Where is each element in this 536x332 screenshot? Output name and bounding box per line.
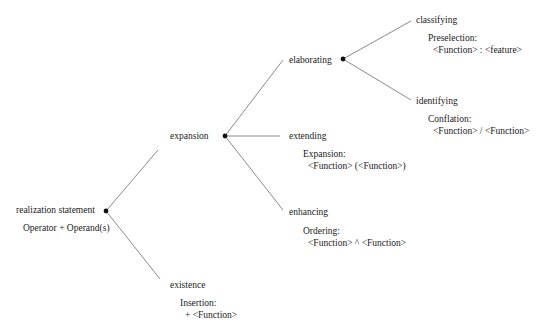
extending-note-body: <Function> (<Function>): [303, 160, 406, 172]
enhancing-note: Ordering: <Function> ^ <Function>: [303, 225, 406, 249]
node-dot-elaborating: [341, 57, 346, 62]
existence-note-title: Insertion:: [180, 298, 216, 308]
existence-note: Insertion: + <Function>: [180, 297, 237, 321]
node-realization-statement: realization statement: [16, 205, 95, 216]
node-classifying: classifying: [416, 15, 457, 26]
edge-root-existence: [106, 211, 160, 279]
identifying-note: Conflation: <Function> / <Function>: [428, 113, 529, 137]
node-existence: existence: [170, 280, 205, 291]
edge-root-expansion: [106, 150, 158, 211]
node-extending: extending: [289, 131, 326, 142]
extending-note-title: Expansion:: [303, 149, 346, 159]
classifying-note: Preselection: <Function> : <feature>: [428, 32, 522, 56]
enhancing-note-title: Ordering:: [303, 226, 340, 236]
identifying-note-title: Conflation:: [428, 114, 471, 124]
classifying-note-title: Preselection:: [428, 33, 477, 43]
extending-note: Expansion: <Function> (<Function>): [303, 148, 406, 172]
edge-elaborating-identifying: [343, 59, 411, 100]
edge-expansion-enhancing: [225, 136, 283, 210]
edge-elaborating-classifying: [343, 21, 411, 59]
node-enhancing: enhancing: [289, 207, 328, 218]
edge-expansion-elaborating: [225, 60, 283, 136]
node-elaborating: elaborating: [289, 55, 332, 66]
node-expansion: expansion: [170, 131, 209, 142]
classifying-note-body: <Function> : <feature>: [428, 44, 522, 56]
existence-note-body: + <Function>: [180, 309, 237, 321]
node-dot-root: [104, 209, 109, 214]
identifying-note-body: <Function> / <Function>: [428, 125, 529, 137]
root-note: Operator + Operand(s): [23, 223, 110, 234]
node-identifying: identifying: [416, 96, 458, 107]
node-dot-expansion: [223, 134, 228, 139]
enhancing-note-body: <Function> ^ <Function>: [303, 237, 406, 249]
